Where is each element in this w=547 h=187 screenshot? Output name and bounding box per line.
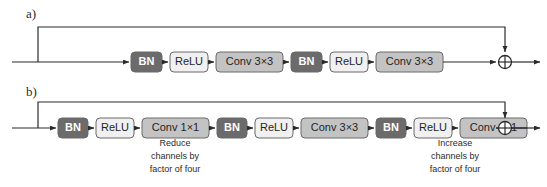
figure-canvas: a)BNReLUConv 3×3BNReLUConv 3×3b)BNReLUCo…	[0, 0, 547, 187]
block-label-relu-3-b: ReLU	[419, 121, 447, 133]
block-label-relu-2-a: ReLU	[335, 55, 363, 67]
reduce-channels-caption-line-3: factor of four	[150, 164, 201, 174]
block-label-bn-1-b: BN	[65, 121, 81, 133]
panel-b: b)BNReLUConv 1×1BNReLUConv 3×3BNReLUConv…	[12, 84, 540, 174]
block-label-conv-1-b: Conv 1×1	[152, 121, 199, 133]
increase-channels-caption: Increasechannels byfactor of four	[430, 138, 481, 174]
block-label-bn-2-b: BN	[224, 121, 240, 133]
increase-channels-caption-line-1: Increase	[438, 138, 473, 148]
reduce-channels-caption-line-2: channels by	[151, 151, 200, 161]
block-label-conv-2-a: Conv 3×3	[386, 55, 433, 67]
reduce-channels-caption: Reducechannels byfactor of four	[150, 138, 201, 174]
residual-block-diagram: a)BNReLUConv 3×3BNReLUConv 3×3b)BNReLUCo…	[0, 0, 547, 187]
panel-label-b: b)	[26, 84, 37, 99]
increase-channels-caption-line-2: channels by	[431, 151, 480, 161]
panel-label-a: a)	[26, 6, 36, 21]
block-label-bn-1-a: BN	[139, 55, 155, 67]
block-label-bn-3-b: BN	[383, 121, 399, 133]
block-label-bn-2-a: BN	[299, 55, 315, 67]
panel-a: a)BNReLUConv 3×3BNReLUConv 3×3	[12, 6, 540, 72]
block-label-conv-1-a: Conv 3×3	[226, 55, 273, 67]
reduce-channels-caption-line-1: Reduce	[159, 138, 190, 148]
block-label-relu-1-a: ReLU	[175, 55, 203, 67]
block-label-conv-2-b: Conv 3×3	[311, 121, 358, 133]
increase-channels-caption-line-3: factor of four	[430, 164, 481, 174]
block-label-relu-1-b: ReLU	[101, 121, 129, 133]
block-label-relu-2-b: ReLU	[260, 121, 288, 133]
